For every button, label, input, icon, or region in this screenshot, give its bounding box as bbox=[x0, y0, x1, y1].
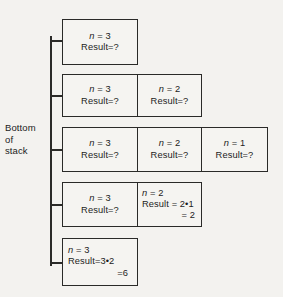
variable-value: = 3 bbox=[97, 84, 110, 94]
variable-name: n bbox=[89, 31, 94, 41]
variable-value: = 2 bbox=[167, 138, 180, 148]
stack-frame-cell: n = 3 Result=? bbox=[63, 75, 137, 116]
stack-frame-result-total: =6 bbox=[117, 268, 135, 279]
stack-frame-variable: n = 3 bbox=[89, 31, 110, 42]
variable-name: n bbox=[159, 138, 164, 148]
bottom-of-stack-label: Bottom of stack bbox=[5, 122, 51, 157]
stack-frame-variable: n = 2 bbox=[159, 138, 180, 149]
stack-frame-result-line: Result=? bbox=[81, 205, 119, 216]
variable-value: = 3 bbox=[97, 138, 110, 148]
stack-frame-variable: n = 3 bbox=[89, 84, 110, 95]
stack-frame-result-line: Result=? bbox=[151, 150, 189, 161]
stack-frame-cell: n = 3 Result=3•2 =6 bbox=[63, 239, 137, 285]
stack-diagram: Bottom of stack n = 3 Result=? n = 3 Res… bbox=[0, 0, 283, 297]
variable-name: n bbox=[68, 245, 73, 255]
variable-value: = 2 bbox=[150, 188, 163, 198]
stack-frame-variable: n = 2 bbox=[159, 84, 180, 95]
stack-frame-variable: n = 3 bbox=[89, 193, 110, 204]
stack-frame-cell: n = 2 Result=? bbox=[137, 75, 201, 116]
stack-spine-line bbox=[50, 36, 52, 266]
stack-frame-row-1: n = 3 Result=? bbox=[62, 19, 138, 65]
stack-frame-cell: n = 2 Result=? bbox=[137, 128, 201, 171]
variable-value: = 2 bbox=[167, 84, 180, 94]
variable-name: n bbox=[159, 84, 164, 94]
variable-value: = 3 bbox=[97, 31, 110, 41]
stack-frame-variable: n = 3 bbox=[68, 245, 89, 256]
variable-name: n bbox=[89, 138, 94, 148]
stack-frame-row-2: n = 3 Result=? n = 2 Result=? bbox=[62, 74, 202, 117]
bottom-of-stack-line-1: Bottom bbox=[5, 122, 51, 134]
bottom-of-stack-line-2: of bbox=[5, 134, 51, 146]
stack-frame-result-line: Result=? bbox=[216, 150, 254, 161]
stack-frame-cell: n = 1 Result=? bbox=[201, 128, 267, 171]
bottom-of-stack-line-3: stack bbox=[5, 145, 51, 157]
stack-frame-cell: n = 3 Result=? bbox=[63, 20, 137, 64]
stack-frame-result-line: Result=? bbox=[81, 42, 119, 53]
variable-value: = 1 bbox=[232, 138, 245, 148]
stack-frame-cell: n = 3 Result=? bbox=[63, 128, 137, 171]
stack-frame-result-total: = 2 bbox=[182, 210, 199, 221]
stack-frame-variable: n = 3 bbox=[89, 138, 110, 149]
variable-name: n bbox=[89, 84, 94, 94]
stack-frame-result-line: Result = 2•1 bbox=[142, 199, 194, 210]
variable-name: n bbox=[89, 193, 94, 203]
stack-frame-result-line: Result=3•2 bbox=[68, 256, 114, 267]
variable-name: n bbox=[142, 188, 147, 198]
stack-frame-cell: n = 2 Result = 2•1 = 2 bbox=[137, 183, 201, 226]
stack-frame-cell: n = 3 Result=? bbox=[63, 183, 137, 226]
stack-frame-variable: n = 2 bbox=[142, 188, 163, 199]
variable-value: = 3 bbox=[97, 193, 110, 203]
stack-frame-result-line: Result=? bbox=[81, 96, 119, 107]
stack-frame-result-line: Result=? bbox=[81, 150, 119, 161]
variable-name: n bbox=[224, 138, 229, 148]
stack-frame-row-3: n = 3 Result=? n = 2 Result=? n = 1 Resu… bbox=[62, 127, 268, 172]
stack-frame-row-5: n = 3 Result=3•2 =6 bbox=[62, 238, 138, 286]
stack-frame-row-4: n = 3 Result=? n = 2 Result = 2•1 = 2 bbox=[62, 182, 202, 227]
stack-frame-variable: n = 1 bbox=[224, 138, 245, 149]
variable-value: = 3 bbox=[76, 245, 89, 255]
stack-frame-result-line: Result=? bbox=[151, 96, 189, 107]
